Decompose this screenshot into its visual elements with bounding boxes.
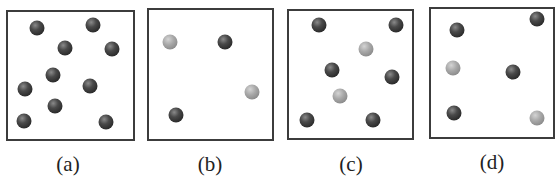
light-particle-icon	[446, 61, 461, 76]
panel-label-c: (c)	[339, 152, 362, 177]
dark-particle-icon	[30, 21, 45, 36]
dark-particle-icon	[389, 18, 404, 33]
dark-particle-icon	[17, 114, 32, 129]
dark-particle-icon	[506, 65, 521, 80]
dark-particle-icon	[325, 63, 340, 78]
dark-particle-icon	[218, 35, 233, 50]
panel-b	[147, 8, 274, 141]
light-particle-icon	[530, 111, 545, 126]
dark-particle-icon	[312, 18, 327, 33]
dark-particle-icon	[99, 115, 114, 130]
dark-particle-icon	[169, 108, 184, 123]
light-particle-icon	[359, 42, 374, 57]
light-particle-icon	[163, 35, 178, 50]
dark-particle-icon	[105, 42, 120, 57]
dark-particle-icon	[385, 70, 400, 85]
dark-particle-icon	[86, 18, 101, 33]
panel-label-a: (a)	[56, 152, 79, 177]
dark-particle-icon	[58, 41, 73, 56]
dark-particle-icon	[530, 12, 545, 27]
dark-particle-icon	[46, 68, 61, 83]
dark-particle-icon	[450, 23, 465, 38]
dark-particle-icon	[300, 113, 315, 128]
dark-particle-icon	[83, 79, 98, 94]
dark-particle-icon	[366, 113, 381, 128]
dark-particle-icon	[18, 82, 33, 97]
panel-label-d: (d)	[480, 150, 505, 175]
light-particle-icon	[245, 85, 260, 100]
light-particle-icon	[333, 89, 348, 104]
dark-particle-icon	[48, 99, 63, 114]
panel-label-b: (b)	[198, 152, 223, 177]
dark-particle-icon	[447, 106, 462, 121]
